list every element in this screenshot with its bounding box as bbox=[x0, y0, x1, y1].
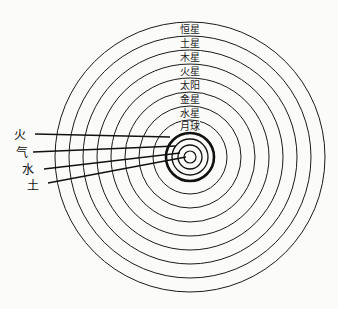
label-moon: 月球 bbox=[180, 120, 200, 132]
label-earth: 土 bbox=[27, 179, 39, 193]
label-saturn: 土星 bbox=[180, 37, 200, 49]
label-air: 气 bbox=[16, 145, 28, 160]
leader-fire bbox=[35, 134, 170, 137]
label-mars: 火星 bbox=[180, 66, 200, 77]
label-water: 水 bbox=[22, 163, 34, 177]
sphere-water bbox=[178, 145, 202, 169]
leader-air bbox=[33, 146, 176, 152]
label-mercury: 水星 bbox=[180, 108, 200, 119]
label-sun: 太阳 bbox=[180, 79, 200, 91]
label-fire: 火 bbox=[14, 128, 26, 142]
label-jupiter: 木星 bbox=[180, 52, 200, 63]
diagram-canvas: 恒星 土星 木星 火星 太阳 金星 水星 月球 火 气 水 土 bbox=[0, 0, 338, 309]
elemental-spheres bbox=[166, 133, 214, 181]
sphere-fire bbox=[166, 133, 214, 181]
label-venus: 金星 bbox=[180, 93, 200, 105]
label-fixed-stars: 恒星 bbox=[180, 23, 200, 35]
geocentric-diagram: 恒星 土星 木星 火星 太阳 金星 水星 月球 火 气 水 土 bbox=[0, 0, 338, 309]
element-labels: 火 气 水 土 bbox=[14, 128, 39, 193]
